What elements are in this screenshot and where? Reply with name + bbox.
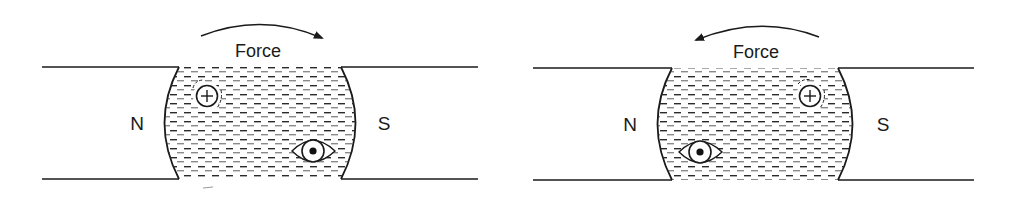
north-label: N (623, 114, 637, 135)
south-pole-magnet (341, 67, 478, 179)
magnetic-field-lines (640, 65, 870, 183)
south-label: S (877, 114, 890, 135)
force-arrow-icon (696, 26, 819, 40)
south-pole-magnet (838, 68, 974, 180)
south-label: S (378, 113, 391, 134)
motor-force-diagram: N S Force (0, 0, 1011, 197)
force-label: Force (235, 41, 281, 61)
north-pole-magnet (42, 67, 179, 179)
force-label: Force (733, 42, 779, 62)
north-label: N (130, 113, 144, 134)
left-panel: N S Force (42, 24, 478, 188)
right-panel: N S Force (533, 26, 974, 183)
north-pole-magnet (533, 68, 672, 180)
force-arrow-icon (201, 24, 322, 38)
stray-mark (203, 187, 213, 188)
magnetic-field-lines (150, 64, 375, 182)
